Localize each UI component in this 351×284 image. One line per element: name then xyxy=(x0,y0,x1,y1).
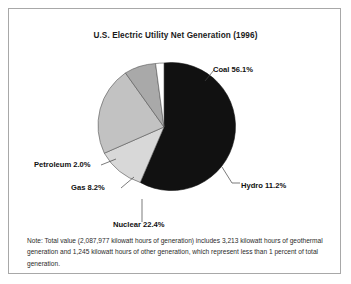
pie-label-coal: Coal 56.1% xyxy=(213,65,253,74)
figure-frame: U.S. Electric Utility Net Generation (19… xyxy=(8,8,341,274)
pie-label-hydro: Hydro 11.2% xyxy=(241,181,286,190)
pie-label-petroleum: Petroleum 2.0% xyxy=(34,160,91,169)
leader-line-gas xyxy=(121,177,134,188)
pie-label-gas: Gas 8.2% xyxy=(71,183,105,192)
pie-label-nuclear: Nuclear 22.4% xyxy=(113,220,165,229)
leader-line-hydro xyxy=(222,167,240,183)
chart-footnote: Note: Total value (2,087,977 kilowatt ho… xyxy=(27,235,323,269)
